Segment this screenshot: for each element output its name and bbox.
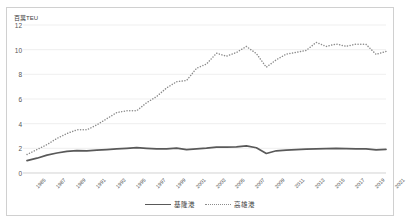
legend-label: 基隆港 [174,199,195,209]
legend-swatch-icon [145,204,171,205]
y-axis-tick-label: 12 [8,22,22,29]
y-axis-tick-label: 2 [8,145,22,152]
y-axis-tick-label: 4 [8,120,22,127]
y-axis-tick-label: 0 [8,170,22,177]
legend-label: 高雄港 [234,199,255,209]
legend-item[interactable]: 基隆港 [145,199,195,209]
legend: 基隆港高雄港 [0,199,400,209]
y-axis-tick-label: 6 [8,96,22,103]
legend-item[interactable]: 高雄港 [205,199,255,209]
series-line [27,42,386,154]
legend-swatch-icon [205,204,231,205]
y-axis-tick-label: 10 [8,46,22,53]
y-axis-tick-label: 8 [8,71,22,78]
